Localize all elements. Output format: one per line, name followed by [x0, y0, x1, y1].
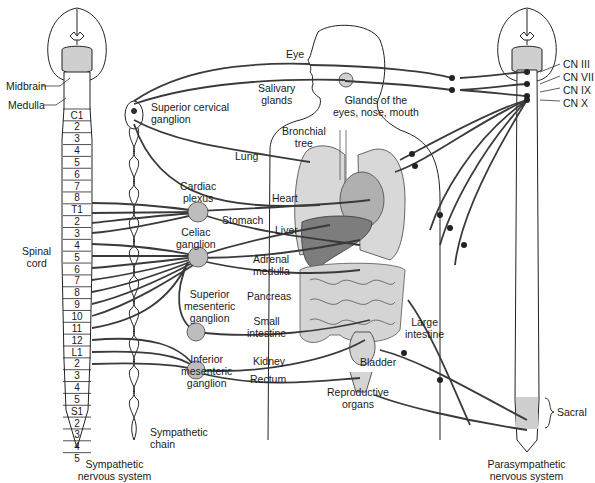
adrenal-medulla-label: Adrenalmedulla	[253, 253, 290, 277]
spinal-segment-label: 12	[65, 335, 89, 346]
autonomic-diagram-canvas	[0, 0, 595, 483]
spinal-cord-label: Spinalcord	[22, 245, 51, 269]
spinal-segment-label: 5	[65, 157, 89, 168]
bronchial-tree-label: Bronchialtree	[282, 125, 326, 149]
midbrain-label: Midbrain	[6, 80, 46, 92]
sympathetic-chain-label: Sympatheticchain	[150, 426, 208, 450]
lung-label: Lung	[235, 150, 258, 162]
spinal-segment-label: 3	[65, 228, 89, 239]
spinal-segment-label: 10	[65, 311, 89, 322]
superior-mesenteric-ganglion-label: Superiormesentericganglion	[184, 288, 235, 324]
spinal-segment-label: 7	[65, 181, 89, 192]
spinal-segment-label: 2	[65, 121, 89, 132]
stomach-label: Stomach	[222, 214, 263, 226]
pancreas-label: Pancreas	[247, 290, 291, 302]
rectum-label: Rectum	[250, 373, 286, 385]
spinal-segment-label: 3	[65, 370, 89, 381]
spinal-segment-label: 3	[65, 429, 89, 440]
bladder-label: Bladder	[360, 356, 396, 368]
spinal-segment-label: C1	[65, 110, 89, 121]
medulla-label: Medulla	[8, 99, 45, 111]
salivary-glands-label: Salivaryglands	[258, 82, 295, 106]
spinal-segment-label: 4	[65, 240, 89, 251]
spinal-segment-label: 7	[65, 275, 89, 286]
eye-label: Eye	[286, 48, 304, 60]
parasympathetic-system-title: Parasympathetic nervous system	[484, 458, 569, 482]
right-spinal-cord	[515, 70, 539, 452]
spinal-segment-label: 3	[65, 133, 89, 144]
left-brain-illustration	[48, 8, 107, 82]
spinal-segment-label: 2	[65, 358, 89, 369]
sacral-region	[516, 397, 538, 429]
reproductive-organs-label: Reproductiveorgans	[327, 386, 389, 410]
inferior-mesenteric-ganglion-label: Inferiormesentericganglion	[181, 353, 232, 389]
cn-vii-label: CN VII	[563, 71, 594, 83]
superior-mesenteric-ganglion	[187, 323, 205, 341]
sympathetic-system-title: Sympathetic nervous system	[72, 458, 157, 482]
sacral-brace	[545, 398, 554, 428]
spinal-segment-label: 4	[65, 145, 89, 156]
superior-cervical-ganglion-label: Superior cervicalganglion	[151, 101, 229, 125]
spinal-segment-label: 8	[65, 192, 89, 203]
small-intestine-label: Smallintestine	[247, 315, 286, 339]
spinal-segment-label: 8	[65, 287, 89, 298]
spinal-segment-label: 4	[65, 441, 89, 452]
cn-ix-label: CN IX	[563, 84, 591, 96]
cardiac-plexus-ganglion	[188, 202, 208, 222]
celiac-ganglion	[188, 247, 208, 267]
cn-iii-label: CN III	[563, 58, 590, 70]
spinal-segment-label: 6	[65, 264, 89, 275]
spinal-segment-label: 4	[65, 382, 89, 393]
glands-eyes-nose-mouth-label: Glands of theeyes, nose, mouth	[333, 94, 419, 118]
cardiac-plexus-label: Cardiacplexus	[180, 180, 216, 204]
spinal-segment-label: T1	[65, 204, 89, 215]
celiac-ganglion-label: Celiacganglion	[176, 226, 216, 250]
spinal-segment-label: 6	[65, 169, 89, 180]
spinal-segment-label: 2	[65, 216, 89, 227]
sacral-label: Sacral	[557, 406, 587, 418]
spinal-segment-label: 5	[65, 252, 89, 263]
spinal-segment-label: S1	[65, 406, 89, 417]
kidney-label: Kidney	[253, 355, 285, 367]
spinal-segment-label: 2	[65, 418, 89, 429]
spinal-segment-label: L1	[65, 347, 89, 358]
spinal-segment-label: 5	[65, 394, 89, 405]
spinal-segment-label: 9	[65, 299, 89, 310]
cn-x-label: CN X	[563, 97, 588, 109]
large-intestine-label: Largeintestine	[405, 316, 444, 340]
heart-label: Heart	[272, 192, 298, 204]
liver-label: Liver	[275, 224, 298, 236]
spinal-segment-label: 11	[65, 323, 89, 334]
